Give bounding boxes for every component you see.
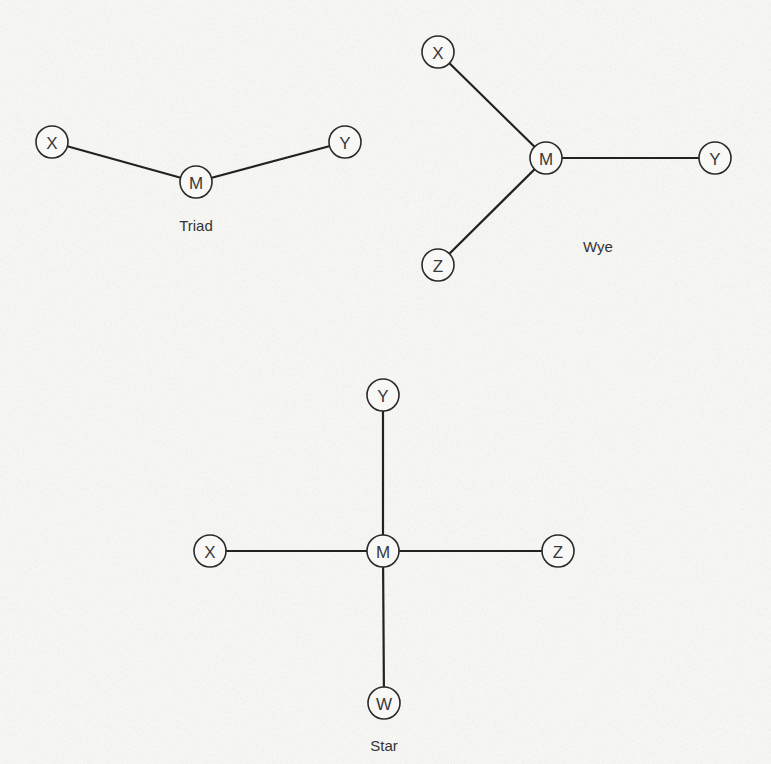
node-z: Z	[422, 249, 454, 281]
node-m: M	[367, 535, 399, 567]
edge-m-w	[383, 551, 384, 703]
caption-star: Star	[370, 737, 398, 754]
edge-x-m	[52, 142, 196, 182]
star-diagram: Y X M Z W Star	[194, 379, 574, 754]
edge-m-y	[196, 142, 345, 182]
node-label: X	[46, 134, 57, 153]
node-m: M	[530, 142, 562, 174]
node-label: X	[204, 543, 215, 562]
node-label: Z	[433, 257, 443, 276]
node-label: Y	[377, 387, 388, 406]
network-diagrams: X M Y Triad X M	[0, 0, 771, 764]
node-label: Y	[709, 150, 720, 169]
edge-m-z	[438, 158, 546, 265]
node-z: Z	[542, 535, 574, 567]
node-label: W	[376, 695, 392, 714]
node-y: Y	[329, 126, 361, 158]
node-y: Y	[699, 142, 731, 174]
caption-triad: Triad	[179, 217, 213, 234]
edge-x-m	[438, 52, 546, 158]
node-m: M	[180, 166, 212, 198]
node-y: Y	[367, 379, 399, 411]
node-label: M	[189, 174, 203, 193]
node-label: X	[432, 44, 443, 63]
node-x: X	[422, 36, 454, 68]
figure-page: X M Y Triad X M	[0, 0, 771, 764]
node-label: Y	[339, 134, 350, 153]
triad-diagram: X M Y Triad	[36, 126, 361, 234]
node-label: M	[376, 543, 390, 562]
node-w: W	[368, 687, 400, 719]
node-x: X	[194, 535, 226, 567]
node-label: M	[539, 150, 553, 169]
wye-diagram: X M Y Z Wye	[422, 36, 731, 281]
node-x: X	[36, 126, 68, 158]
node-label: Z	[553, 543, 563, 562]
caption-wye: Wye	[583, 238, 613, 255]
